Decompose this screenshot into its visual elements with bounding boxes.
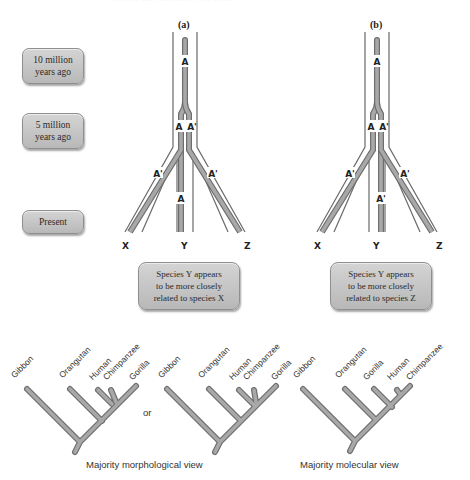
- tip-label-y-a: Y: [181, 241, 188, 251]
- svg-text:A': A': [187, 122, 197, 132]
- result-line: Species Y appears: [156, 268, 221, 280]
- gene-tree-diagrams: A A A' A' A A' A A A' A' A' A': [0, 0, 470, 480]
- svg-text:A': A': [400, 169, 410, 179]
- svg-text:A': A': [379, 122, 389, 132]
- svg-text:A: A: [374, 57, 381, 67]
- cladograms: [27, 386, 410, 452]
- tip-label-x-b: X: [314, 241, 321, 251]
- result-line: to be more closely: [348, 280, 414, 292]
- cladogram-molecular: [303, 386, 410, 451]
- svg-text:A': A': [376, 194, 386, 204]
- tip-label-z-a: Z: [244, 241, 251, 251]
- svg-text:A': A': [153, 169, 163, 179]
- svg-text:A: A: [176, 122, 183, 132]
- tip-label-z-b: Z: [436, 241, 443, 251]
- tip-label-x-a: X: [122, 241, 129, 251]
- svg-text:A: A: [182, 57, 189, 67]
- result-box-b: Species Y appears to be more closely rel…: [330, 262, 432, 310]
- result-line: to be more closely: [156, 280, 222, 292]
- svg-text:A: A: [368, 122, 375, 132]
- gene-tree-b: A A A' A' A' A': [317, 32, 437, 232]
- svg-text:A': A': [345, 169, 355, 179]
- result-box-a: Species Y appears to be more closely rel…: [138, 262, 240, 310]
- svg-text:A': A': [208, 169, 218, 179]
- svg-text:A: A: [178, 194, 185, 204]
- or-connector: or: [143, 407, 151, 418]
- result-line: related to species Z: [346, 292, 416, 304]
- tip-label-y-b: Y: [373, 241, 380, 251]
- gene-tree-a: A A A' A' A A': [125, 32, 245, 232]
- cladogram-morphological-2: [167, 386, 276, 452]
- result-line: related to species X: [154, 292, 225, 304]
- caption-molecular: Majority molecular view: [300, 459, 399, 470]
- result-line: Species Y appears: [348, 268, 413, 280]
- cladogram-morphological-1: [27, 386, 136, 452]
- caption-morphological: Majority morphological view: [86, 459, 203, 470]
